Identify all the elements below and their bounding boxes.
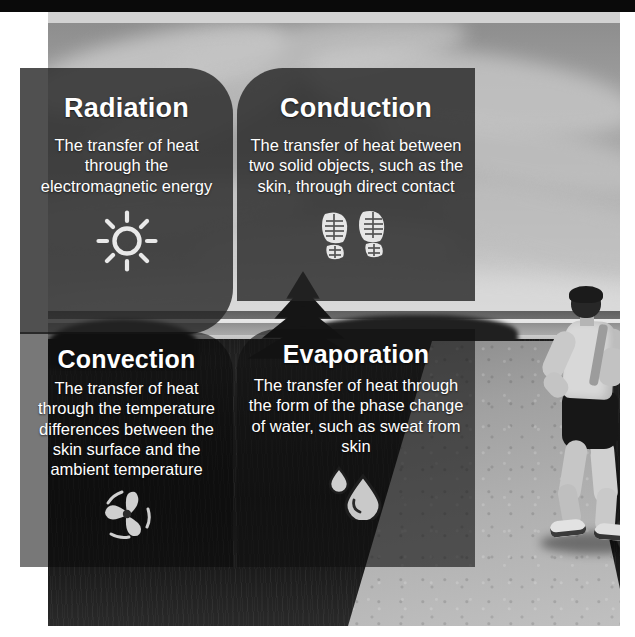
card-convection-title: Convection — [20, 346, 233, 372]
card-conduction-title: Conduction — [237, 94, 475, 122]
top-light-band — [48, 12, 620, 23]
card-evaporation-description: The transfer of heat through the form of… — [245, 375, 467, 456]
card-radiation-description: The transfer of heat through the electro… — [25, 135, 228, 195]
footprints-icon — [237, 210, 475, 268]
runner-figure — [538, 288, 620, 548]
fan-icon — [20, 489, 233, 541]
card-evaporation: Evaporation The transfer of heat through… — [237, 329, 475, 567]
card-conduction: Conduction The transfer of heat between … — [237, 68, 475, 301]
card-radiation-title: Radiation — [20, 94, 233, 122]
card-convection: Convection The transfer of heat through … — [20, 332, 233, 567]
water-droplets-icon — [237, 466, 475, 520]
card-convection-description: The transfer of heat through the tempera… — [28, 378, 225, 479]
card-conduction-description: The transfer of heat between two solid o… — [241, 135, 471, 195]
card-radiation: Radiation The transfer of heat through t… — [20, 68, 233, 334]
sun-icon — [20, 210, 233, 272]
top-black-bar — [0, 0, 635, 12]
card-evaporation-title: Evaporation — [237, 341, 475, 367]
poster: Radiation The transfer of heat through t… — [0, 0, 635, 637]
